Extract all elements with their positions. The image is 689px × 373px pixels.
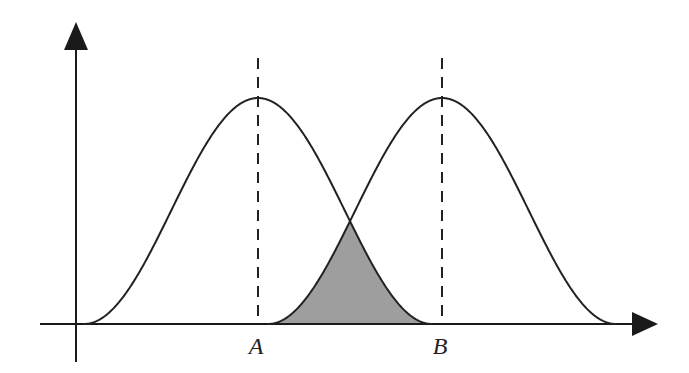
y-axis-arrowhead bbox=[64, 22, 88, 50]
marker-label-b: B bbox=[433, 333, 448, 359]
overlap-shaded-region bbox=[268, 221, 432, 324]
marker-label-a: A bbox=[247, 333, 264, 359]
x-axis-arrowhead bbox=[632, 312, 658, 336]
overlap-diagram: A B bbox=[0, 0, 689, 373]
